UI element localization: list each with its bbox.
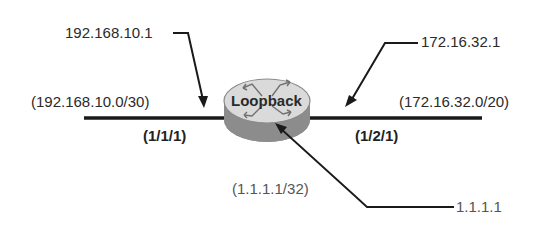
left-interface-ip: 192.168.10.1 <box>65 24 153 41</box>
right-port: (1/2/1) <box>355 127 398 144</box>
right-arrowhead-icon <box>345 95 357 107</box>
loopback-subnet: (1.1.1.1/32) <box>232 180 309 197</box>
right-interface-ip: 172.16.32.1 <box>421 33 500 50</box>
right-subnet: (172.16.32.0/20) <box>399 93 509 110</box>
left-port: (1/1/1) <box>143 127 186 144</box>
router-label: Loopback <box>231 92 302 109</box>
router-icon <box>224 79 310 142</box>
right-ip-callout-arrow <box>352 43 418 99</box>
left-arrowhead-icon <box>198 96 208 108</box>
loopback-ip: 1.1.1.1 <box>456 198 502 215</box>
left-ip-callout-arrow <box>173 33 203 100</box>
left-subnet: (192.168.10.0/30) <box>31 93 149 110</box>
